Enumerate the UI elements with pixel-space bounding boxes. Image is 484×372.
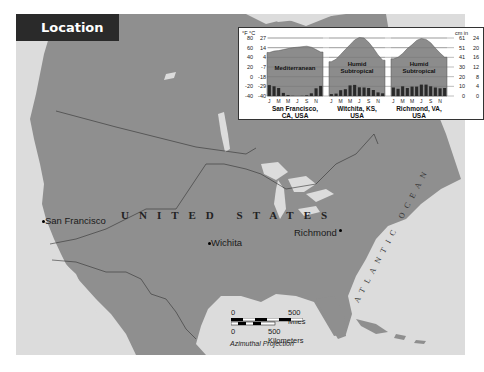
svg-text:M: M [401,98,405,104]
city-label: San Francisco [45,215,106,226]
precip-bar [305,95,308,96]
svg-text:Subtropical: Subtropical [340,68,373,74]
svg-text:60: 60 [247,45,253,51]
city-marker-icon [339,229,342,232]
svg-text:8: 8 [476,74,479,80]
svg-text:J: J [268,98,271,104]
svg-text:USA: USA [350,112,364,119]
svg-text:S: S [429,98,433,104]
svg-text:0: 0 [462,93,465,99]
svg-text:14: 14 [260,45,266,51]
precip-bar [287,95,290,96]
climate-label: Mediterranean [274,65,315,71]
precip-bar [372,90,375,96]
precip-bar [415,87,418,96]
precip-bar [315,88,318,96]
precip-bar [443,88,446,96]
precip-bar [273,86,276,96]
climate-label: Humid [348,61,367,67]
svg-text:N: N [376,98,380,104]
svg-text:10: 10 [459,83,465,89]
precip-bar [277,88,280,96]
precip-bar [353,85,356,96]
svg-text:-29: -29 [258,83,266,89]
precip-bar [339,90,342,96]
precip-bar [397,89,400,96]
svg-text:80: 80 [247,35,253,41]
svg-text:24: 24 [473,35,479,41]
svg-text:30: 30 [459,64,465,70]
precip-bar [310,93,313,96]
svg-text:20: 20 [473,45,479,51]
precip-bar [330,94,333,96]
precip-bar [335,94,338,96]
precip-bar [282,93,285,96]
precip-bar [401,86,404,96]
svg-text:0: 0 [250,74,253,80]
climate-label: Humid [410,61,429,67]
svg-text:51: 51 [459,45,465,51]
precip-bar [411,87,414,96]
precip-bar [363,88,366,97]
svg-text:J: J [358,98,361,104]
scale-miles-zero: 0 [231,308,235,317]
svg-text:M: M [410,98,414,104]
scale-km-zero: 0 [231,327,235,336]
svg-text:4: 4 [476,83,479,89]
precip-bar [429,86,432,96]
city-san-francisco[interactable]: San Francisco [42,215,106,226]
city-wichita[interactable]: Wichita [208,237,242,248]
svg-text:40: 40 [247,54,253,60]
svg-text:41: 41 [459,54,465,60]
svg-text:-20: -20 [245,83,253,89]
svg-text:CA, USA: CA, USA [282,112,309,120]
precip-bar [434,88,437,97]
precip-bar [392,88,395,97]
svg-text:-7: -7 [261,64,266,70]
city-richmond[interactable]: Richmond [294,227,342,238]
precip-bar [349,85,352,96]
svg-text:20: 20 [459,74,465,80]
svg-text:0: 0 [476,93,479,99]
svg-text:J: J [392,98,395,104]
svg-text:N: N [438,98,442,104]
svg-text:27: 27 [260,35,266,41]
svg-text:-18: -18 [258,74,266,80]
precip-bar [367,88,370,96]
svg-text:J: J [296,98,299,104]
svg-text:N: N [314,98,318,104]
svg-text:12: 12 [473,64,479,70]
climograph-panel: °F °Ccm in8027612460145120404411620-7301… [238,27,484,120]
svg-text:M: M [277,98,281,104]
svg-text:M: M [339,98,343,104]
precip-bar [381,93,384,96]
city-label: Wichita [211,237,242,248]
svg-text:Subtropical: Subtropical [402,68,435,74]
svg-text:M: M [348,98,352,104]
precip-bar [439,88,442,96]
svg-text:S: S [305,98,309,104]
precip-bar [420,85,423,96]
precip-bar [319,86,322,96]
page-title: Location [16,14,119,41]
svg-text:M: M [286,98,290,104]
country-label: UNITED STATES [121,209,337,221]
svg-text:J: J [330,98,333,104]
svg-text:USA: USA [412,112,426,119]
svg-text:-40: -40 [258,93,266,99]
precip-bar [344,89,347,96]
scale-bar-graphic [231,318,303,326]
precip-bar [406,88,409,96]
precip-bar [377,92,380,96]
svg-text:4: 4 [263,54,266,60]
svg-text:61: 61 [459,35,465,41]
svg-text:-40: -40 [245,93,253,99]
city-label: Richmond [294,227,337,238]
precip-bar [358,87,361,96]
svg-text:S: S [367,98,371,104]
precip-bar [425,85,428,96]
svg-text:16: 16 [473,54,479,60]
svg-text:20: 20 [247,64,253,70]
climograph-chart: °F °Ccm in8027612460145120404411620-7301… [239,28,484,121]
precip-bar [268,85,271,96]
